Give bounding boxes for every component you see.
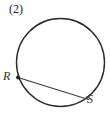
point-marker-r bbox=[16, 76, 20, 80]
item-number-label: (2) bbox=[9, 3, 23, 15]
chord-line-rs bbox=[18, 78, 89, 100]
geometry-figure: (2) R S bbox=[0, 0, 110, 113]
point-label-r: R bbox=[3, 70, 10, 82]
figure-canvas bbox=[0, 0, 110, 113]
point-label-s: S bbox=[87, 93, 93, 105]
